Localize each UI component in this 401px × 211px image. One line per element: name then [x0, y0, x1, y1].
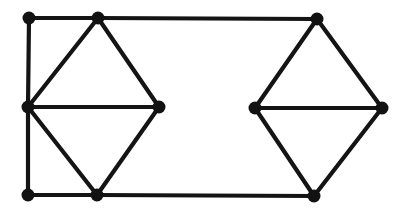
graph-vertex: [153, 101, 166, 114]
graph-edge: [28, 18, 29, 107]
graph-figure: [0, 0, 401, 211]
graph-vertex: [91, 189, 104, 202]
graph-edge: [98, 18, 317, 19]
graph-vertex: [376, 102, 389, 115]
graph-vertex: [249, 102, 262, 115]
graph-vertex: [308, 190, 321, 203]
graph-vertex: [311, 13, 324, 26]
graph-vertex: [92, 12, 105, 25]
graph-edge: [97, 195, 314, 196]
graph-vertex: [22, 189, 35, 202]
graph-vertex: [23, 12, 36, 25]
graph-canvas: [0, 0, 401, 211]
graph-vertex: [22, 101, 35, 114]
